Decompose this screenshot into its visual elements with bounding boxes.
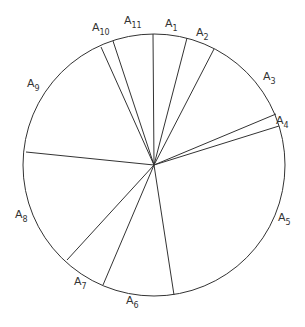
label-a9: A9	[27, 77, 40, 93]
label-a1: A1	[165, 17, 178, 33]
partition-diagram: A1A2A3A4A5A6A7A8A9A10A11	[0, 0, 305, 327]
spoke-a9-a10	[101, 47, 154, 165]
spokes-group	[26, 34, 279, 295]
spoke-a2-a3	[154, 49, 214, 165]
label-a8: A8	[15, 208, 28, 224]
spoke-a7-a8	[67, 165, 154, 260]
label-a5: A5	[278, 211, 291, 227]
spoke-a1-a2	[154, 38, 187, 165]
spoke-a5-a6	[154, 165, 174, 295]
label-a10: A10	[92, 21, 110, 37]
label-a3: A3	[263, 70, 276, 86]
label-a11: A11	[124, 14, 142, 30]
label-a4: A4	[276, 114, 289, 130]
spoke-a8-a9	[26, 152, 154, 165]
label-a6: A6	[126, 294, 139, 310]
spoke-a3-a4	[154, 114, 276, 165]
label-a7: A7	[74, 275, 87, 291]
spoke-a10-a11	[113, 41, 154, 165]
spoke-a11-a1	[153, 34, 154, 165]
spoke-a6-a7	[103, 165, 154, 285]
label-a2: A2	[196, 26, 209, 42]
spoke-a4-a5	[154, 126, 279, 165]
